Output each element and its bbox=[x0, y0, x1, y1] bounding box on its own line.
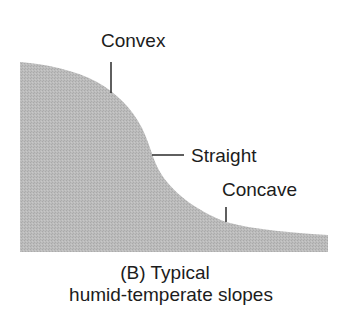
caption-line-1: (B) Typical bbox=[0, 262, 330, 284]
convex-label: Convex bbox=[101, 31, 165, 51]
straight-label: Straight bbox=[191, 146, 256, 166]
caption-line-2: humid-temperate slopes bbox=[0, 284, 342, 306]
concave-label: Concave bbox=[222, 180, 297, 200]
slope-profile-area bbox=[20, 62, 328, 252]
